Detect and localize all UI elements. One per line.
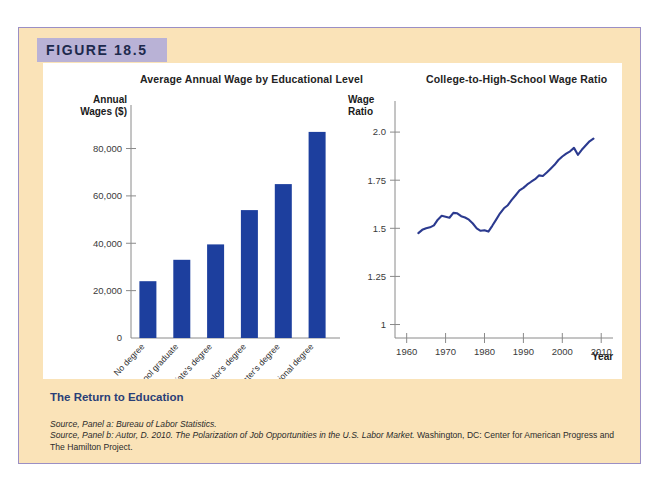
chart-b-ytick-label: 1.75 xyxy=(368,175,387,186)
source-panel-b-title: The Polarization of Job Opportunities in… xyxy=(175,430,414,440)
chart-b-ytick-label: 1.5 xyxy=(373,223,386,234)
chart-b-xtick-label: 1960 xyxy=(396,346,417,357)
chart-b-ytick-label: 2.0 xyxy=(373,126,386,137)
chart-b-xtick-label: 1980 xyxy=(474,346,495,357)
chart-b-ytick-label: 1 xyxy=(381,319,386,330)
chart-b-xtick-label: 1970 xyxy=(435,346,456,357)
source-panel-a: Source, Panel a: Bureau of Labor Statist… xyxy=(50,419,616,430)
source-panel-b-text1: Autor, D. 2010. xyxy=(114,430,176,440)
chart-b-xtick-label: 1990 xyxy=(513,346,534,357)
chart-b-line-plot: 11.251.51.752.0196019701980199020002010 xyxy=(43,63,622,379)
chart-b-data-line xyxy=(418,139,593,233)
source-panel-b: Source, Panel b: Autor, D. 2010. The Pol… xyxy=(50,430,616,453)
source-panel-b-label: Source, Panel b: xyxy=(50,430,114,440)
figure-caption-title: The Return to Education xyxy=(50,391,184,403)
figure-source-block: Source, Panel a: Bureau of Labor Statist… xyxy=(50,419,616,453)
chart-b-xtick-label: 2010 xyxy=(591,346,612,357)
source-panel-a-label: Source, Panel a: xyxy=(50,419,114,429)
figure-number-label: FIGURE 18.5 xyxy=(37,42,148,58)
source-panel-a-text: Bureau of Labor Statistics. xyxy=(114,419,217,429)
chart-b-ytick-label: 1.25 xyxy=(368,271,387,282)
chart-b-xtick-label: 2000 xyxy=(552,346,573,357)
charts-panel: Average Annual Wage by Educational Level… xyxy=(43,63,622,379)
figure-card: FIGURE 18.5 Average Annual Wage by Educa… xyxy=(18,27,641,464)
figure-number-tag: FIGURE 18.5 xyxy=(37,38,167,62)
